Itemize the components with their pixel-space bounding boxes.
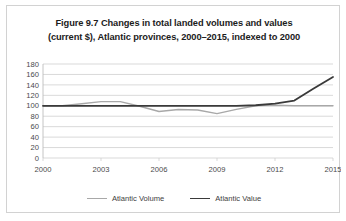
legend-line-icon-value bbox=[190, 198, 210, 199]
y-axis-tick-label: 160 bbox=[26, 70, 39, 79]
series-line-atlantic-volume bbox=[43, 102, 333, 114]
y-axis-tick-label: 20 bbox=[31, 143, 39, 152]
x-axis-tick-label: 2006 bbox=[151, 165, 168, 174]
line-chart-svg: 020406080100120140160180 200020032006200… bbox=[7, 58, 341, 184]
legend-label-value: Atlantic Value bbox=[215, 194, 261, 203]
y-axis-tick-label: 120 bbox=[26, 91, 39, 100]
chart-title: Figure 9.7 Changes in total landed volum… bbox=[19, 16, 329, 44]
y-axis-tick-label: 100 bbox=[26, 101, 39, 110]
x-axis-tick-label: 2015 bbox=[325, 165, 341, 174]
legend-item-value: Atlantic Value bbox=[190, 194, 261, 203]
chart-title-line-1: Figure 9.7 Changes in total landed volum… bbox=[56, 18, 293, 28]
series-line-atlantic-value bbox=[43, 77, 333, 106]
y-axis-tick-label: 60 bbox=[31, 122, 39, 131]
y-axis-tick-label: 40 bbox=[31, 133, 39, 142]
x-axis-tick-label: 2000 bbox=[35, 165, 52, 174]
plot-area: 020406080100120140160180 200020032006200… bbox=[7, 58, 341, 184]
legend-label-volume: Atlantic Volume bbox=[112, 194, 164, 203]
chart-legend: Atlantic Volume Atlantic Value bbox=[7, 194, 341, 203]
y-axis-tick-labels: 020406080100120140160180 bbox=[26, 60, 39, 163]
y-axis-tick-label: 140 bbox=[26, 81, 39, 90]
gridlines-group bbox=[43, 64, 333, 161]
y-axis-tick-label: 80 bbox=[31, 112, 39, 121]
figure-card: Figure 9.7 Changes in total landed volum… bbox=[6, 5, 340, 213]
legend-item-volume: Atlantic Volume bbox=[87, 194, 164, 203]
legend-line-icon-volume bbox=[87, 198, 107, 199]
x-axis-tick-label: 2003 bbox=[93, 165, 110, 174]
y-axis-tick-label: 180 bbox=[26, 60, 39, 69]
x-axis-tick-labels: 200020032006200920122015 bbox=[35, 165, 341, 174]
x-axis-tick-label: 2012 bbox=[267, 165, 284, 174]
chart-title-line-2: (current $), Atlantic provinces, 2000–20… bbox=[19, 30, 329, 44]
y-axis-tick-label: 0 bbox=[35, 154, 39, 163]
x-axis-tick-label: 2009 bbox=[209, 165, 226, 174]
